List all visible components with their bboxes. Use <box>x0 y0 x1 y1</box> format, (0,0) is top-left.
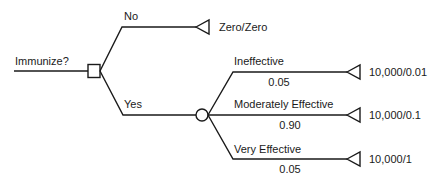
outcome-no: Zero/Zero <box>219 21 267 33</box>
terminal-node-ineffective-icon <box>347 65 360 79</box>
terminal-node-no-icon <box>196 20 209 34</box>
branch-very-effective-probability: 0.05 <box>279 163 300 175</box>
branch-moderately-effective-label: Moderately Effective <box>234 98 333 110</box>
branch-no-label: No <box>124 10 138 22</box>
branch-yes-label: Yes <box>124 98 142 110</box>
root-label: Immunize? <box>15 55 69 67</box>
branch-ineffective-probability: 0.05 <box>268 76 289 88</box>
decision-tree-diagram: Immunize? No Zero/Zero Yes Ineffective 0… <box>0 0 435 181</box>
chance-node-icon <box>196 109 208 121</box>
outcome-very-effective: 10,000/1 <box>369 153 412 165</box>
branch-ineffective-label: Ineffective <box>234 55 284 67</box>
outcome-moderately-effective: 10,000/0.1 <box>369 109 421 121</box>
branch-moderately-effective-probability: 0.90 <box>279 119 300 131</box>
terminal-node-very-effective-icon <box>347 152 360 166</box>
terminal-node-moderately-effective-icon <box>347 108 360 122</box>
outcome-ineffective: 10,000/0.01 <box>369 66 427 78</box>
decision-node-icon <box>88 65 100 78</box>
branch-very-effective-label: Very Effective <box>234 143 301 155</box>
branch-yes-edge <box>100 71 196 115</box>
branch-no-edge <box>100 27 196 71</box>
